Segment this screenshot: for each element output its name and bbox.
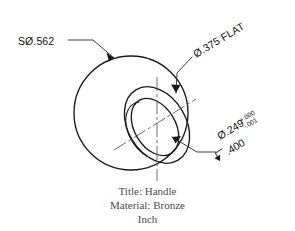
arrowhead-flat-diameter <box>171 85 181 94</box>
technical-drawing: SØ.562 Ø.375 FLAT Ø.249 +.000 -.001 .400… <box>0 0 295 231</box>
units-line: Inch <box>0 212 295 226</box>
title-line: Title: Handle <box>0 184 295 198</box>
label-flat-diameter: Ø.375 FLAT <box>191 20 247 60</box>
leader-sphere-diameter <box>68 40 114 58</box>
label-hole-depth: .400 <box>223 136 247 157</box>
label-sphere-diameter: SØ.562 <box>18 35 54 47</box>
bore-inner-wall <box>126 102 147 156</box>
material-line: Material: Bronze <box>0 198 295 212</box>
title-block: Title: Handle Material: Bronze Inch <box>0 184 295 226</box>
hole-ellipse <box>121 90 188 164</box>
label-hole-depth-group: .400 <box>212 136 247 164</box>
